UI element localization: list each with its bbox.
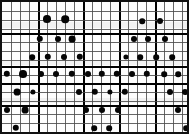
gridline-horizontal-major xyxy=(2,105,187,107)
gridline-horizontal-minor xyxy=(2,132,187,133)
datapoint xyxy=(43,15,51,23)
datapoint xyxy=(145,36,151,42)
gridline-horizontal-minor xyxy=(2,51,187,52)
datapoint xyxy=(161,71,167,77)
datapoint xyxy=(91,125,97,131)
gridline-horizontal-minor xyxy=(2,114,187,115)
datapoint xyxy=(53,71,59,77)
datapoint xyxy=(22,107,29,114)
plot-area xyxy=(0,0,189,134)
datapoint xyxy=(69,36,76,43)
datapoint xyxy=(106,125,112,131)
datapoint xyxy=(107,89,112,94)
datapoint xyxy=(61,54,67,60)
datapoint xyxy=(30,89,35,94)
datapoint xyxy=(144,71,150,77)
datapoint xyxy=(137,54,143,60)
datapoint xyxy=(61,15,69,23)
datapoint xyxy=(129,71,135,77)
gridline-horizontal-minor xyxy=(2,29,187,30)
datapoint xyxy=(19,70,27,78)
datapoint xyxy=(175,107,181,113)
datapoint xyxy=(182,89,188,95)
gridline-horizontal-major xyxy=(2,66,187,68)
datapoint xyxy=(99,107,105,113)
datapoint xyxy=(76,89,82,95)
datapoint xyxy=(139,18,145,24)
gridline-horizontal-major xyxy=(2,83,187,85)
datapoint xyxy=(83,107,89,113)
gridline-horizontal-minor xyxy=(2,101,187,102)
datapoint xyxy=(4,71,10,77)
gridline-horizontal-minor xyxy=(2,42,187,43)
datapoint xyxy=(167,89,173,95)
datapoint xyxy=(38,71,44,77)
datapoint xyxy=(4,107,10,113)
gridline-horizontal-minor xyxy=(2,75,187,76)
datapoint xyxy=(99,71,105,77)
datapoint xyxy=(92,89,98,95)
datapoint xyxy=(153,54,159,60)
datapoint xyxy=(85,71,91,77)
gridline-horizontal-major xyxy=(2,33,187,35)
datapoint xyxy=(115,107,121,113)
datapoint xyxy=(162,36,168,42)
datapoint xyxy=(175,71,181,77)
gridline-horizontal-minor xyxy=(2,11,187,12)
scatter-plot-figure xyxy=(0,0,189,134)
datapoint xyxy=(183,125,189,131)
datapoint xyxy=(169,54,175,60)
datapoint xyxy=(131,36,137,42)
datapoint xyxy=(14,89,21,96)
gridline-horizontal-minor xyxy=(2,123,187,124)
datapoint xyxy=(157,18,163,24)
datapoint xyxy=(55,36,61,42)
gridline-horizontal-minor xyxy=(2,60,187,61)
datapoint xyxy=(13,125,19,131)
datapoint xyxy=(29,54,35,60)
